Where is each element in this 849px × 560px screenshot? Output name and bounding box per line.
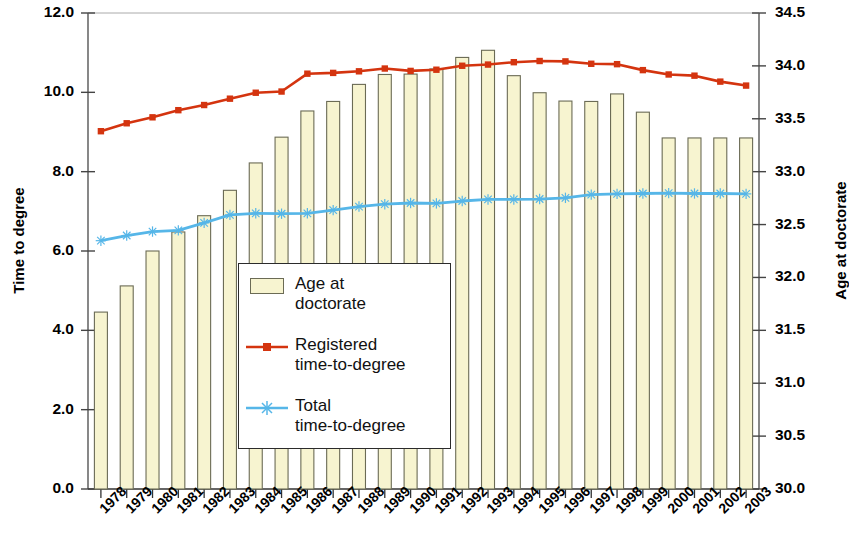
red-line-marker-icon — [244, 339, 290, 355]
legend-label-line2: time-to-degree — [295, 416, 406, 436]
blue-line-star-marker — [457, 196, 467, 206]
red-line-marker — [485, 61, 491, 67]
blue-line-star-marker — [225, 210, 235, 220]
legend-item-total-time-to-degree: Total time-to-degree — [239, 396, 450, 436]
y-tick-label-left: 0.0 — [2, 479, 74, 497]
red-line-marker — [407, 68, 413, 74]
legend-label-line1: Registered — [295, 335, 406, 355]
blue-line-star-marker — [251, 208, 261, 218]
line-series-total-time-to-degree — [96, 188, 752, 246]
blue-line-star-marker — [147, 226, 157, 236]
blue-line-star-marker — [560, 193, 570, 203]
blue-line-star-marker — [715, 188, 725, 198]
legend-item-age-at-doctorate: Age at doctorate — [239, 274, 450, 314]
blue-line-marker-icon — [244, 400, 290, 416]
blue-line-star-marker — [586, 189, 596, 199]
blue-line-star-marker — [483, 194, 493, 204]
y-axis-title-right: Age at doctorate — [832, 161, 849, 321]
y-tick-label-right: 31.5 — [775, 320, 805, 338]
red-line-marker — [330, 70, 336, 76]
legend-label-total-time-to-degree: Total time-to-degree — [295, 396, 406, 436]
blue-line-star-marker — [96, 235, 106, 245]
red-line-marker — [511, 59, 517, 65]
legend-swatch-red-line — [239, 335, 295, 355]
legend-swatch-blue-line — [239, 396, 295, 416]
y-tick-label-left: 10.0 — [2, 82, 74, 100]
red-line-marker — [356, 68, 362, 74]
red-line-marker — [175, 107, 181, 113]
red-line-marker — [98, 128, 104, 134]
y-tick-label-right: 34.5 — [775, 3, 805, 21]
red-line-marker — [227, 95, 233, 101]
legend-label-age-at-doctorate: Age at doctorate — [295, 274, 366, 314]
blue-line-star-marker — [663, 188, 673, 198]
y-tick-label-right: 34.0 — [775, 56, 805, 74]
blue-line-star-marker — [173, 225, 183, 235]
y-tick-label-left: 2.0 — [2, 400, 74, 418]
blue-line-star-marker — [276, 209, 286, 219]
red-line-marker — [536, 58, 542, 64]
y-tick-label-right: 30.0 — [775, 479, 805, 497]
y-tick-label-left: 12.0 — [2, 3, 74, 21]
bar — [456, 57, 469, 489]
blue-line-star-marker — [380, 199, 390, 209]
bar — [533, 93, 546, 489]
bar — [198, 216, 211, 489]
red-line-marker — [253, 90, 259, 96]
bar — [120, 286, 133, 489]
bar — [507, 76, 520, 489]
red-line-marker — [433, 67, 439, 73]
legend-label-line2: time-to-degree — [295, 355, 406, 375]
red-line-marker — [717, 78, 723, 84]
red-line-marker — [459, 63, 465, 69]
blue-line-star-marker — [534, 194, 544, 204]
red-line-marker — [640, 67, 646, 73]
bar-swatch-icon — [250, 278, 284, 294]
blue-line-star-marker — [405, 198, 415, 208]
blue-line-star-marker — [689, 188, 699, 198]
y-tick-label-right: 33.5 — [775, 109, 805, 127]
blue-line-star-marker — [509, 194, 519, 204]
line-series-registered-time-to-degree — [98, 58, 750, 135]
chart-legend: Age at doctorate Registered time-to-degr… — [238, 263, 451, 449]
bar — [559, 101, 572, 489]
blue-line-star-marker — [302, 208, 312, 218]
y-tick-label-right: 31.0 — [775, 373, 805, 391]
red-line-marker — [304, 70, 310, 76]
y-tick-label-right: 33.0 — [775, 162, 805, 180]
red-line-marker — [588, 61, 594, 67]
blue-line-star-marker — [431, 198, 441, 208]
red-line-marker — [614, 61, 620, 67]
red-line-marker — [562, 58, 568, 64]
y-tick-label-left: 8.0 — [2, 162, 74, 180]
y-tick-label-right: 30.5 — [775, 426, 805, 444]
legend-item-registered-time-to-degree: Registered time-to-degree — [239, 335, 450, 375]
red-line-marker — [149, 114, 155, 120]
bar — [636, 112, 649, 489]
bar — [146, 251, 159, 489]
legend-swatch-bar — [239, 274, 295, 294]
red-line-marker — [691, 72, 697, 78]
bar — [611, 94, 624, 489]
red-line-marker — [743, 82, 749, 88]
legend-label-registered-time-to-degree: Registered time-to-degree — [295, 335, 406, 375]
y-tick-label-left: 4.0 — [2, 320, 74, 338]
y-tick-label-right: 32.5 — [775, 215, 805, 233]
red-line-marker — [201, 102, 207, 108]
blue-line-star-marker — [354, 201, 364, 211]
y-tick-label-right: 32.0 — [775, 267, 805, 285]
bar — [585, 101, 598, 489]
red-line-marker — [382, 65, 388, 71]
blue-line-star-marker — [199, 218, 209, 228]
blue-line-star-marker — [741, 189, 751, 199]
legend-label-line1: Total — [295, 396, 406, 416]
y-tick-label-left: 6.0 — [2, 241, 74, 259]
blue-line-star-marker — [328, 205, 338, 215]
blue-line-star-marker — [638, 188, 648, 198]
bar — [223, 190, 236, 489]
bar — [172, 232, 185, 489]
bar — [482, 50, 495, 489]
red-line-marker — [124, 120, 130, 126]
blue-line-star-marker — [122, 230, 132, 240]
